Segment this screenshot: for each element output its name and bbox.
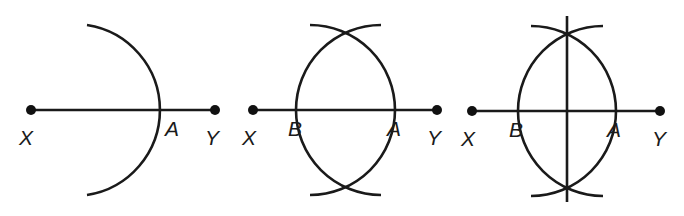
label-x: X xyxy=(460,127,476,150)
point-y xyxy=(655,106,665,116)
point-x xyxy=(26,105,36,115)
label-y: Y xyxy=(205,126,221,149)
panel-2: X B A Y xyxy=(241,25,443,195)
point-y xyxy=(432,105,442,115)
label-b: B xyxy=(509,118,523,141)
point-x xyxy=(467,106,477,116)
label-y: Y xyxy=(652,127,668,150)
label-a: A xyxy=(163,117,179,140)
label-a: A xyxy=(385,117,401,140)
label-x: X xyxy=(18,126,34,149)
panel-1: X A Y xyxy=(18,25,221,195)
point-x xyxy=(248,105,258,115)
label-a: A xyxy=(605,118,621,141)
label-y: Y xyxy=(427,126,443,149)
label-x: X xyxy=(241,126,257,149)
point-y xyxy=(210,105,220,115)
panel-3: X B A Y xyxy=(460,16,668,202)
label-b: B xyxy=(288,117,302,140)
construction-figure: X A Y X B A Y X B A Y xyxy=(0,0,684,216)
